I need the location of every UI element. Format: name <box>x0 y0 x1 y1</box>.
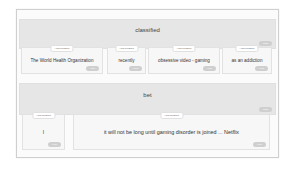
argument-tag: ARGUMENT <box>32 112 55 119</box>
argument-badge: ARG2 <box>255 66 268 71</box>
predicate-badge: PRED <box>259 41 272 46</box>
argument-text: recently <box>108 58 145 63</box>
argument-tag: ARGUMENT <box>235 45 258 52</box>
argument-text: it will not be long until gaming disorde… <box>74 129 269 135</box>
argument-tag: ARGUMENT <box>172 45 195 52</box>
predicate-label: bet <box>20 92 275 98</box>
predicate-block-bet[interactable]: bet PRED <box>19 83 276 115</box>
argument-box[interactable]: ARGUMENT I ARG0 <box>22 114 65 150</box>
argument-tag: ARGUMENT <box>115 45 138 52</box>
argument-badge: ARG1 <box>203 66 216 71</box>
srl-visualization: classified PRED ARGUMENT The World Healt… <box>16 9 279 158</box>
argument-box[interactable]: ARGUMENT obsessive video - gaming ARG1 <box>148 47 220 74</box>
predicate-badge: PRED <box>259 107 272 112</box>
argument-box[interactable]: ARGUMENT it will not be long until gamin… <box>73 114 270 150</box>
argument-badge: ARG1 <box>253 142 266 147</box>
argument-tag: ARGUMENT <box>50 45 73 52</box>
argument-box[interactable]: ARGUMENT as an addiction ARG2 <box>222 47 272 74</box>
argument-text: as an addiction <box>223 58 271 63</box>
argument-box[interactable]: ARGUMENT The World Health Organization A… <box>21 47 103 74</box>
predicate-label: classified <box>20 27 275 33</box>
argument-text: The World Health Organization <box>22 58 102 63</box>
argument-badge: ARG0 <box>86 66 99 71</box>
argument-tag: ARGUMENT <box>160 112 183 119</box>
argument-box[interactable]: ARGUMENT recently ARGM <box>107 47 146 74</box>
argument-text: I <box>23 129 64 135</box>
argument-badge: ARGM <box>129 66 142 71</box>
argument-text: obsessive video - gaming <box>149 58 219 63</box>
argument-badge: ARG0 <box>48 142 61 147</box>
